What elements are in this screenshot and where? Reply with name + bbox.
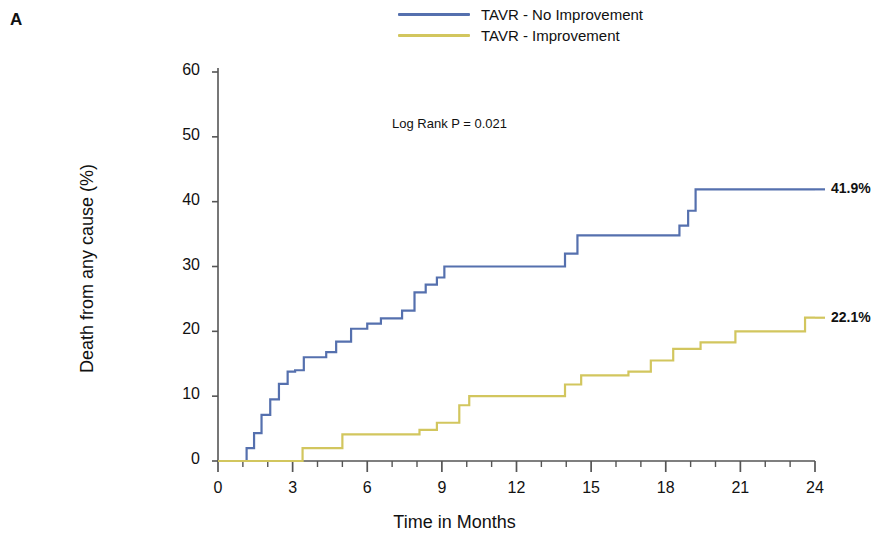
y-axis-title: Death from any cause (%): [77, 99, 98, 439]
end-label-no-improvement: 41.9%: [831, 180, 871, 196]
x-tick-label: 3: [273, 479, 313, 497]
x-tick-label: 0: [198, 479, 238, 497]
y-tick-label: 30: [160, 256, 200, 274]
y-tick-label: 10: [160, 385, 200, 403]
axis-layer: [212, 68, 815, 472]
series-layer: [218, 189, 825, 461]
y-tick-label: 50: [160, 126, 200, 144]
x-tick-label: 6: [347, 479, 387, 497]
y-tick-label: 0: [160, 450, 200, 468]
y-tick-label: 60: [160, 61, 200, 79]
x-tick-label: 21: [720, 479, 760, 497]
end-label-improvement: 22.1%: [831, 309, 871, 325]
x-tick-label: 15: [571, 479, 611, 497]
y-tick-label: 20: [160, 320, 200, 338]
x-axis-title: Time in Months: [0, 512, 879, 533]
series-line-tavr-improvement: [218, 318, 815, 461]
kaplan-meier-figure: A TAVR - No Improvement TAVR - Improveme…: [0, 0, 879, 542]
plot-area: [0, 0, 879, 542]
y-tick-label: 40: [160, 191, 200, 209]
x-tick-label: 9: [422, 479, 462, 497]
x-axis-title-text: Time in Months: [363, 512, 515, 532]
x-tick-label: 18: [646, 479, 686, 497]
log-rank-annotation: Log Rank P = 0.021: [392, 116, 507, 131]
x-tick-label: 24: [795, 479, 835, 497]
x-tick-label: 12: [497, 479, 537, 497]
series-line-tavr-no-improvement: [218, 189, 815, 461]
